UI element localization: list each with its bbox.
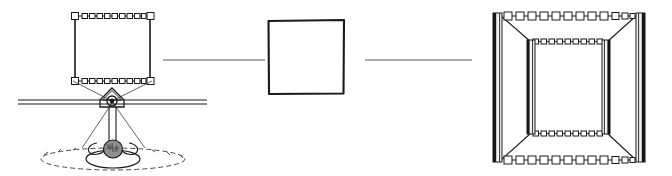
depth-edge-top-right — [607, 16, 636, 42]
panel-left — [18, 13, 207, 171]
diagram-canvas — [0, 0, 672, 176]
near-frame-bottom-rail — [504, 156, 635, 164]
panel-right — [493, 12, 645, 164]
far-frame-bottom-rail — [533, 131, 606, 136]
post-near-right — [636, 13, 645, 162]
far-frame-top-rail — [533, 39, 606, 44]
target-frame-top-rail — [72, 13, 155, 20]
abstract-square — [269, 20, 345, 94]
post-far-left — [527, 40, 535, 134]
post-far-right — [602, 40, 610, 134]
post-near-left — [493, 13, 502, 162]
depth-edge-bottom-right — [607, 133, 636, 160]
target-frame — [72, 13, 155, 85]
sensor-lens-icon — [110, 99, 115, 104]
near-frame-top-rail — [504, 12, 635, 20]
diagram-root — [0, 0, 672, 176]
panel-middle — [269, 20, 345, 94]
base-object — [104, 140, 123, 158]
target-frame-bottom-rail — [72, 78, 155, 85]
